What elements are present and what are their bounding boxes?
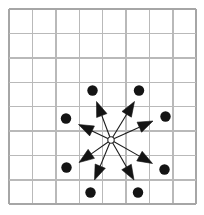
origin-layer <box>108 137 114 143</box>
vector-right-lower <box>111 140 170 175</box>
endpoint-dot-marker <box>61 162 71 172</box>
endpoint-dot-marker <box>134 85 144 95</box>
endpoint-dot-marker <box>87 85 97 95</box>
endpoint-dot-marker <box>159 164 169 174</box>
vector-layer <box>61 85 171 197</box>
radial-vector-field-diagram <box>0 0 204 215</box>
endpoint-dot-marker <box>160 111 170 121</box>
arrowhead-icon <box>97 102 107 118</box>
arrowhead-icon <box>137 151 153 163</box>
arrowhead-icon <box>122 164 134 180</box>
vector-up-right <box>111 85 144 140</box>
arrowhead-icon <box>79 125 95 136</box>
figure-canvas <box>0 0 204 215</box>
grid-layer <box>9 9 196 204</box>
arrowhead-icon <box>122 102 135 118</box>
endpoint-dot-marker <box>61 113 71 123</box>
arrowhead-icon <box>95 164 106 180</box>
endpoint-dot-marker <box>85 187 95 197</box>
vector-left-upper <box>61 113 111 140</box>
endpoint-dot-marker <box>133 187 143 197</box>
origin-point-marker <box>108 137 114 143</box>
